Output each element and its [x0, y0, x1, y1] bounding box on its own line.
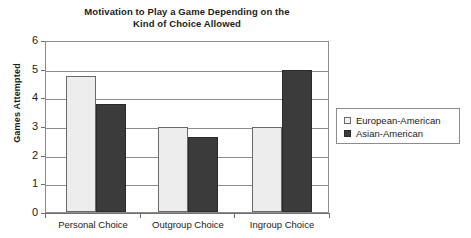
x-axis-line [45, 213, 330, 214]
y-tick-label-0: 0 [10, 207, 38, 218]
y-tick-label-4: 4 [10, 92, 38, 103]
x-tick-mark-end [329, 213, 330, 218]
bar-ingroup-choice-asian-american [282, 70, 312, 212]
chart-title-line-1: Motivation to Play a Game Depending on t… [45, 6, 329, 18]
chart-title: Motivation to Play a Game Depending on t… [45, 6, 329, 30]
legend-swatch-icon-asian-american [344, 130, 351, 137]
bar-chart-figure: Motivation to Play a Game Depending on t… [0, 0, 471, 238]
y-tick-label-2: 2 [10, 150, 38, 161]
legend-label-asian-american: Asian-American [356, 128, 423, 139]
y-tick-label-5: 5 [10, 64, 38, 75]
plot-inner [46, 42, 328, 212]
bar-personal-choice-european-american [66, 76, 96, 212]
bar-outgroup-choice-european-american [158, 127, 188, 212]
plot-area [45, 41, 329, 213]
chart-legend: European-American Asian-American [336, 108, 460, 144]
legend-swatch-icon-european-american [344, 117, 351, 124]
legend-entry-asian-american: Asian-American [344, 127, 423, 140]
legend-label-european-american: European-American [356, 115, 441, 126]
x-tick-mark-sep-2 [234, 213, 235, 218]
x-tick-label-personal-choice: Personal Choice [45, 219, 141, 230]
y-tick-label-1: 1 [10, 178, 38, 189]
x-tick-label-ingroup-choice: Ingroup Choice [234, 219, 330, 230]
bar-outgroup-choice-asian-american [188, 137, 218, 212]
x-tick-mark-sep-1 [140, 213, 141, 218]
bar-ingroup-choice-european-american [252, 127, 282, 212]
legend-entry-european-american: European-American [344, 114, 441, 127]
x-tick-label-outgroup-choice: Outgroup Choice [140, 219, 236, 230]
y-tick-label-3: 3 [10, 121, 38, 132]
y-tick-label-6: 6 [10, 35, 38, 46]
chart-title-line-2: Kind of Choice Allowed [45, 18, 329, 30]
x-tick-mark-start [45, 213, 46, 218]
bar-personal-choice-asian-american [96, 104, 126, 212]
